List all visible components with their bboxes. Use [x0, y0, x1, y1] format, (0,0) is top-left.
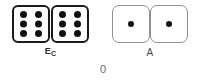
pip: [74, 30, 81, 37]
domino-tile-a[interactable]: [112, 5, 188, 43]
domino-half-a-right: [150, 5, 188, 43]
domino-half-a-left: [112, 5, 150, 43]
pip: [35, 30, 42, 37]
domino-group-a: A: [112, 5, 188, 58]
pip: [35, 11, 42, 18]
domino-label-a: A: [147, 48, 154, 58]
pip: [35, 21, 42, 28]
pip: [74, 21, 81, 28]
domino-label-ec: EC: [45, 47, 56, 57]
domino-half-ec-left: [12, 5, 50, 43]
pip: [128, 21, 134, 27]
domino-group-ec: EC: [12, 5, 89, 57]
figure-bottom-label: 0: [0, 64, 206, 75]
pip: [166, 21, 172, 27]
pip: [59, 11, 66, 18]
pip: [20, 30, 27, 37]
pip: [20, 11, 27, 18]
domino-figure: EC A 0: [0, 0, 206, 83]
domino-half-ec-right: [51, 5, 89, 43]
pip: [20, 21, 27, 28]
domino-tile-ec[interactable]: [12, 5, 89, 43]
pip: [74, 11, 81, 18]
domino-label-ec-subscript: C: [51, 50, 56, 57]
pip: [59, 30, 66, 37]
pip: [59, 21, 66, 28]
